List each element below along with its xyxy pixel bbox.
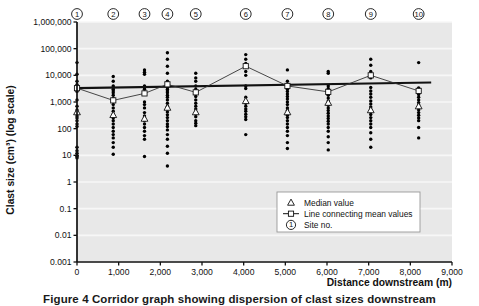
x-tick-label: 3,000 xyxy=(191,267,213,277)
data-point xyxy=(112,75,115,78)
data-point xyxy=(286,97,289,100)
site-number-label: 9 xyxy=(369,10,373,19)
data-point xyxy=(166,164,169,167)
data-point xyxy=(244,74,247,77)
y-tick-label: 1 xyxy=(67,177,72,187)
data-point xyxy=(143,73,146,76)
data-point xyxy=(112,141,115,144)
mean-marker xyxy=(368,73,373,78)
mean-marker xyxy=(326,89,331,94)
data-point xyxy=(369,116,372,119)
data-point xyxy=(286,116,289,119)
site-number-label: 5 xyxy=(194,10,198,19)
data-point xyxy=(369,126,372,129)
figure-caption: Figure 4 Corridor graph showing dispersi… xyxy=(0,292,479,306)
data-point xyxy=(112,80,115,83)
data-point xyxy=(244,118,247,121)
x-tick-label: 1,000 xyxy=(108,267,130,277)
y-tick-label: 10 xyxy=(62,150,72,160)
site-number-3: 3 xyxy=(139,9,150,20)
mean-square-icon xyxy=(288,211,293,216)
data-point xyxy=(244,70,247,73)
site-number-7: 7 xyxy=(282,9,293,20)
mean-marker xyxy=(285,83,290,88)
data-point xyxy=(112,126,115,129)
data-point xyxy=(143,155,146,158)
data-point xyxy=(112,122,115,125)
x-tick-label: 8,000 xyxy=(400,267,422,277)
data-point xyxy=(369,58,372,61)
clast-size-scatter-chart: 0.0010.010.11101001,00010,000100,0001,00… xyxy=(0,0,479,290)
data-point xyxy=(286,147,289,150)
data-point xyxy=(112,153,115,156)
x-tick-label: 0 xyxy=(75,267,80,277)
data-point xyxy=(143,111,146,114)
data-point xyxy=(417,126,420,129)
data-point xyxy=(166,133,169,136)
data-point xyxy=(369,119,372,122)
data-point xyxy=(194,124,197,127)
site-number-6: 6 xyxy=(240,9,251,20)
data-point xyxy=(112,93,115,96)
data-point xyxy=(286,141,289,144)
data-point xyxy=(286,122,289,125)
data-point xyxy=(369,122,372,125)
site-number-9: 9 xyxy=(365,9,376,20)
y-tick-label: 0.001 xyxy=(50,257,72,267)
mean-marker xyxy=(165,82,170,87)
site-number-1: 1 xyxy=(72,9,83,20)
y-axis-ticks: 0.0010.010.11101001,00010,000100,0001,00… xyxy=(33,17,77,267)
circled-number-label: 1 xyxy=(289,220,293,229)
x-tick-label: 9,000 xyxy=(441,267,463,277)
y-tick-label: 1,000,000 xyxy=(33,17,71,27)
data-point xyxy=(194,102,197,105)
data-point xyxy=(369,96,372,99)
data-point xyxy=(369,63,372,66)
x-tick-label: 5,000 xyxy=(275,267,297,277)
data-point xyxy=(327,135,330,138)
x-tick-label: 4,000 xyxy=(233,267,255,277)
data-point xyxy=(112,119,115,122)
legend-item-label: Line connecting mean values xyxy=(304,209,412,219)
data-point xyxy=(417,119,420,122)
legend-item-3: 1Site no. xyxy=(286,220,332,230)
data-point xyxy=(244,53,247,56)
mean-marker xyxy=(416,88,421,93)
data-point xyxy=(369,89,372,92)
data-point xyxy=(286,80,289,83)
data-point xyxy=(327,148,330,151)
site-number-5: 5 xyxy=(190,9,201,20)
data-point xyxy=(369,138,372,141)
data-point xyxy=(327,122,330,125)
site-number-2: 2 xyxy=(108,9,119,20)
data-point xyxy=(194,115,197,118)
data-point xyxy=(143,106,146,109)
data-point xyxy=(166,72,169,75)
mean-marker xyxy=(193,90,198,95)
data-point xyxy=(143,103,146,106)
data-point xyxy=(112,106,115,109)
data-point xyxy=(143,134,146,137)
data-point xyxy=(194,76,197,79)
data-point xyxy=(244,58,247,61)
site-number-label: 2 xyxy=(111,10,115,19)
data-point xyxy=(327,141,330,144)
site-number-label: 3 xyxy=(142,10,146,19)
data-point xyxy=(112,146,115,149)
data-point xyxy=(327,130,330,133)
legend-item-label: Site no. xyxy=(304,220,332,230)
data-point xyxy=(112,130,115,133)
site-number-10: 10 xyxy=(413,9,424,20)
data-point xyxy=(286,119,289,122)
data-point xyxy=(286,103,289,106)
data-point xyxy=(166,128,169,131)
data-point xyxy=(417,61,420,64)
data-point xyxy=(286,126,289,129)
site-number-label: 4 xyxy=(165,10,169,19)
data-point xyxy=(166,145,169,148)
data-point xyxy=(143,122,146,125)
data-point xyxy=(369,131,372,134)
site-number-8: 8 xyxy=(323,9,334,20)
data-point xyxy=(166,51,169,54)
y-tick-label: 0.1 xyxy=(60,204,72,214)
